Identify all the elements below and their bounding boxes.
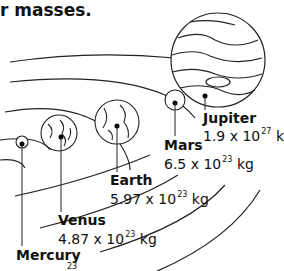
planet-label-mars: Mars — [164, 137, 203, 153]
planet-mass-venus: 4.87 x 1023 kg — [58, 230, 157, 247]
planet-mass-mars: 6.5 x 1023 kg — [164, 155, 254, 172]
planet-mass-jupiter: 1.9 x 1027 kg — [203, 127, 284, 144]
planet-mass-earth: 5.97 x 1023 kg — [110, 190, 209, 207]
planet-label-jupiter: Jupiter — [203, 110, 256, 126]
planet-label-earth: Earth — [110, 172, 153, 188]
jupiter-icon — [171, 13, 265, 107]
planet-mass-mercury: 23 — [66, 262, 77, 271]
planet-label-mercury: Mercury — [16, 247, 81, 263]
venus-icon — [41, 115, 77, 151]
planet-label-venus: Venus — [58, 212, 106, 228]
